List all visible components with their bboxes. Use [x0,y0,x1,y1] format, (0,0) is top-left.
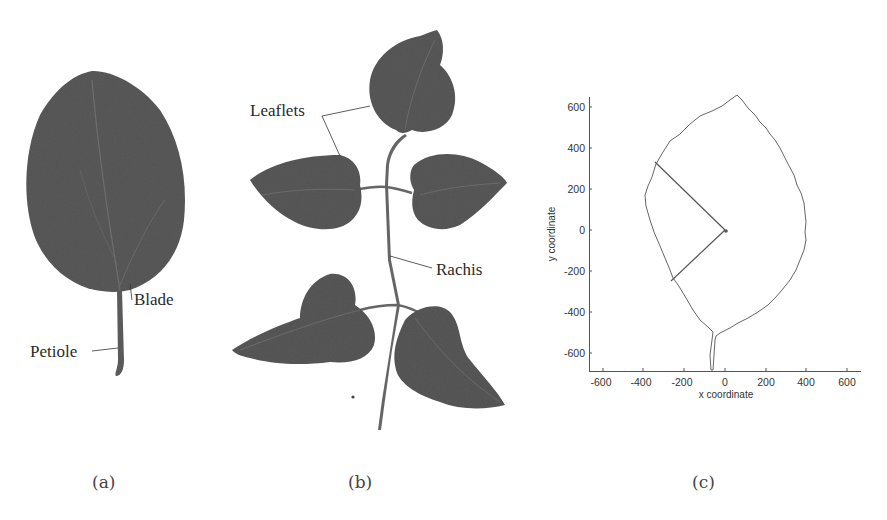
caption-c: (c) [692,472,715,492]
svg-text:-600: -600 [564,347,585,359]
svg-text:200: 200 [757,376,775,388]
blade-label: Blade [134,290,174,309]
petiolule [355,187,412,193]
figure-canvas: Blade Petiole (a) Leaflets Rachis (b) [0,0,887,520]
rachis-label: Rachis [436,260,482,279]
x-tick-labels: -600 -400 -200 0 200 400 600 [590,376,855,388]
radius-upper [655,162,725,230]
leaflet-lower-left [232,274,375,364]
leaflet-upper-right [410,154,507,229]
petiole-leader-line [92,348,118,351]
leaflets-label: Leaflets [250,101,305,120]
radius-lower [671,230,725,281]
svg-text:0: 0 [579,224,585,236]
caption-a: (a) [92,472,115,492]
leaflet-top [369,30,455,133]
rachis [378,134,407,430]
y-axis-label: y coordinate [546,206,557,261]
rachis-leader-line [390,256,432,268]
svg-text:200: 200 [567,183,585,195]
petiolule [360,305,418,312]
svg-text:-200: -200 [564,265,585,277]
x-ticks [603,368,847,371]
x-axis-label: x coordinate [699,389,754,400]
panel-a: Blade Petiole (a) [26,71,185,492]
svg-text:0: 0 [722,376,728,388]
leaf-petiole [115,290,124,376]
caption-b: (b) [348,472,372,492]
y-tick-labels: 600 400 200 0 -200 -400 -600 [564,101,585,359]
leaflet-upper-left [250,155,361,229]
petiole-label: Petiole [30,342,77,361]
panel-c-plot: 600 400 200 0 -200 -400 -600 -600 -400 -… [546,95,861,492]
simple-leaf-image [26,71,185,376]
svg-text:400: 400 [567,142,585,154]
svg-text:-400: -400 [630,376,651,388]
svg-text:-600: -600 [590,376,611,388]
compound-leaf-image [232,30,507,430]
svg-text:600: 600 [838,376,856,388]
svg-text:600: 600 [567,101,585,113]
leaflets-leader-line [322,106,370,156]
specimen-speck [351,395,354,398]
leaflet-lower-right [394,306,505,408]
centroid-marker [724,229,728,233]
panel-b: Leaflets Rachis (b) [232,30,507,492]
svg-text:-200: -200 [671,376,692,388]
leaf-blade [26,71,185,292]
svg-text:400: 400 [797,376,815,388]
svg-text:-400: -400 [564,306,585,318]
